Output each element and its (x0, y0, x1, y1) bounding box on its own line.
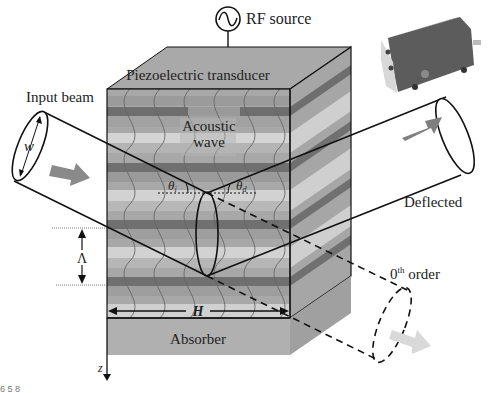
zeroth-order-label: 0th order (390, 265, 440, 282)
aom-diagram: RF source Piezoelectric transducer (0, 0, 493, 393)
arrow-down-icon (78, 275, 86, 284)
corner-text: 6 5 8 (0, 384, 20, 393)
deflected-direction-arrow-icon (402, 117, 442, 141)
arrow-down-icon (103, 374, 111, 381)
zeroth-direction-arrow-icon (389, 330, 431, 354)
acoustic-label-line1: Acoustic (182, 118, 236, 134)
aom-device-photo (381, 17, 481, 93)
rf-source-label: RF source (246, 10, 311, 27)
acoustic-label-line2: wave (193, 134, 225, 150)
input-direction-arrow-icon (49, 163, 90, 186)
z-axis-label: z (97, 361, 103, 375)
beam-width-label: w (24, 138, 34, 154)
arrow-up-icon (78, 229, 86, 238)
wavelength-label: Λ (77, 251, 88, 266)
deflected-beam-aperture (428, 94, 482, 178)
deflected-label: Deflected (404, 194, 463, 210)
input-beam-label: Input beam (26, 89, 94, 105)
transducer-label: Piezoelectric transducer (126, 67, 270, 83)
absorber-label: Absorber (170, 331, 226, 347)
height-label: H (192, 304, 205, 319)
